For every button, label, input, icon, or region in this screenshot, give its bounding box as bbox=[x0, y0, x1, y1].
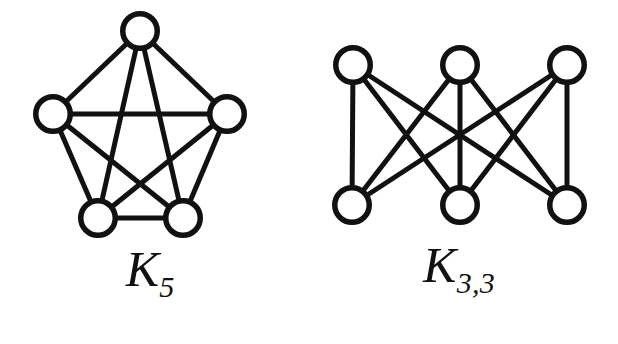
vertex-layer bbox=[36, 14, 245, 236]
graph-vertex-bottom-left bbox=[335, 188, 370, 223]
graph-drawing-k5 bbox=[0, 0, 300, 260]
figure-root: K5 K3,3 bbox=[0, 0, 618, 344]
graph-drawing-k33 bbox=[300, 0, 618, 260]
caption-subscript-k33: 3,3 bbox=[457, 266, 495, 299]
caption-letter-k5: K bbox=[126, 241, 159, 297]
graph-vertex-bottom-right bbox=[550, 188, 585, 223]
graph-figure-k33: K3,3 bbox=[300, 0, 618, 344]
graph-vertex-top-left bbox=[336, 48, 371, 83]
edge-layer bbox=[352, 65, 567, 205]
graph-vertex-bottom-left bbox=[81, 201, 116, 236]
graph-vertex-bottom-middle bbox=[443, 188, 478, 223]
caption-subscript-k5: 5 bbox=[159, 270, 174, 303]
graph-vertex-right bbox=[210, 97, 245, 132]
edge-layer bbox=[53, 31, 227, 218]
caption-letter-k33: K bbox=[423, 237, 456, 293]
graph-caption-k5: K5 bbox=[0, 244, 300, 294]
graph-vertex-top-middle bbox=[443, 48, 478, 83]
graph-vertex-bottom-right bbox=[166, 201, 201, 236]
graph-caption-k33: K3,3 bbox=[300, 240, 618, 290]
graph-vertex-top-right bbox=[550, 48, 585, 83]
graph-vertex-top bbox=[123, 14, 158, 49]
graph-edge-top-left-to-bottom-left bbox=[352, 65, 353, 205]
graph-vertex-left bbox=[36, 97, 71, 132]
graph-figure-k5: K5 bbox=[0, 0, 300, 344]
